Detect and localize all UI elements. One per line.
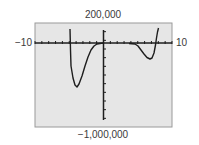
plot-area: [0, 0, 199, 145]
y-min-label: −1,000,000: [78, 130, 128, 140]
y-max-label: 200,000: [85, 10, 121, 20]
x-max-label: 10: [176, 38, 187, 48]
x-min-label: −10: [15, 38, 32, 48]
